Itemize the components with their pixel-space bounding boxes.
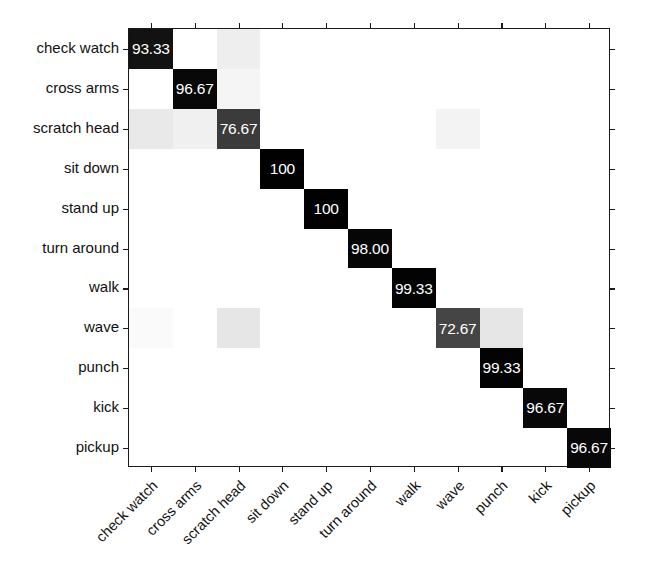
confusion-matrix-figure: check watchcross armsscratch headsit dow… (0, 0, 646, 576)
x-axis-labels: check watchcross armsscratch headsit dow… (0, 0, 646, 576)
x-tick-label-0: check watch (0, 478, 160, 576)
